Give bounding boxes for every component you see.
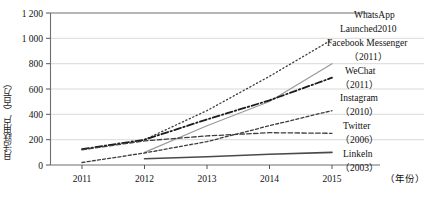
- x-tick-labels: 2011 2012 2013 2014 2015 （年份）: [73, 173, 424, 184]
- series-label-whatsapp-name: WhatsApp: [354, 10, 395, 20]
- y-tick-marks: [46, 13, 50, 165]
- x-tick-label-2015: 2015: [323, 174, 342, 184]
- series-label-twitter-year: （2006）: [340, 134, 379, 145]
- chart-container: 月活跃用户（百万）: [0, 0, 424, 204]
- series-label-wechat-year: （2011）: [340, 79, 379, 90]
- chart-plot-svg: 1 200 1 000 800 600 400 200 0 2011 2012 …: [0, 0, 424, 204]
- x-tick-marks: [82, 165, 332, 169]
- series-label-wechat-name: WeChat: [345, 66, 376, 76]
- y-tick-label-1200: 1 200: [22, 9, 44, 19]
- y-tick-label-400: 400: [29, 110, 44, 120]
- y-tick-label-200: 200: [29, 135, 44, 145]
- series-label-instagram-year: （2010）: [340, 106, 379, 117]
- series-line-linkeln: [145, 152, 333, 158]
- series-line-whatsapp: [145, 40, 333, 140]
- y-tick-label-600: 600: [29, 85, 44, 95]
- y-tick-label-800: 800: [29, 59, 44, 69]
- y-tick-label-1000: 1 000: [22, 34, 44, 44]
- x-tick-label-2014: 2014: [260, 174, 279, 184]
- y-tick-label-0: 0: [38, 161, 43, 171]
- series-line-wechat: [82, 78, 332, 150]
- series-label-linkeln-name: Linkeln: [343, 149, 373, 159]
- series-label-whatsapp-launched: Launched2010: [340, 24, 397, 34]
- series-label-facebook-messenger-name: Facebook Messenger: [327, 38, 408, 48]
- x-axis-unit-label: （年份）: [385, 173, 424, 184]
- series-label-instagram-name: Instagram: [340, 93, 379, 103]
- series-label-twitter-name: Twitter: [343, 121, 371, 131]
- series-labels: WhatsApp Launched2010 Facebook Messenger…: [327, 10, 408, 173]
- x-tick-label-2012: 2012: [135, 174, 154, 184]
- x-tick-label-2011: 2011: [73, 174, 92, 184]
- y-tick-labels: 1 200 1 000 800 600 400 200 0: [22, 9, 44, 171]
- series-label-linkeln-year: （2003）: [340, 162, 379, 173]
- x-tick-label-2013: 2013: [198, 174, 217, 184]
- series-label-facebook-messenger-year: （2011）: [349, 51, 388, 62]
- series-lines: [82, 40, 332, 163]
